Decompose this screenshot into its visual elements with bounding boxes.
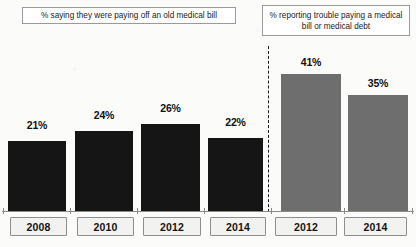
axis-tick xyxy=(3,208,4,214)
bar-value-left-2008: 21% xyxy=(8,119,66,131)
bar-value-right-2014: 35% xyxy=(348,77,408,89)
bar-left-2012 xyxy=(141,124,200,212)
bar-left-2010 xyxy=(75,131,133,212)
axis-tick xyxy=(344,208,345,214)
bar-right-2012 xyxy=(281,74,341,212)
axis-baseline xyxy=(2,211,414,212)
category-label-left-2012: 2012 xyxy=(143,217,201,236)
bar-right-2014 xyxy=(348,95,408,212)
axis-tick xyxy=(271,208,272,214)
bar-value-left-2012: 26% xyxy=(141,102,200,114)
axis-tick xyxy=(412,208,413,214)
bar-left-2014 xyxy=(208,138,263,212)
bar-value-left-2010: 24% xyxy=(75,109,133,121)
bar-value-right-2012: 41% xyxy=(281,56,341,68)
category-label-left-2010: 2010 xyxy=(77,217,134,236)
axis-tick xyxy=(137,208,138,214)
category-label-right-2012: 2012 xyxy=(275,217,337,236)
plot-area: 21% 24% 26% 22% 41% 35% xyxy=(0,0,416,212)
category-label-left-2008: 2008 xyxy=(10,217,67,236)
chart-container: % saying they were paying off an old med… xyxy=(0,0,416,247)
panel-divider-dashed xyxy=(268,46,269,212)
axis-tick xyxy=(70,208,71,214)
category-label-left-2014: 2014 xyxy=(210,217,266,236)
bar-left-2008 xyxy=(8,141,66,212)
bar-value-left-2014: 22% xyxy=(208,116,263,128)
category-label-right-2014: 2014 xyxy=(344,217,407,236)
axis-tick xyxy=(204,208,205,214)
